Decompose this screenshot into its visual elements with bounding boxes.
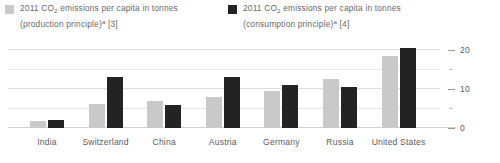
- bar-austria-production: [206, 97, 222, 128]
- legend-consumption-line1-rest: emissions per capita in tonnes: [281, 3, 401, 13]
- y-axis-label-20: 20: [460, 45, 470, 55]
- bar-china-consumption: [165, 105, 181, 128]
- bar-chart: 2011 CO2 emissions per capita in tonnes …: [0, 0, 500, 163]
- bar-austria-consumption: [224, 77, 240, 128]
- y-tickmark-20-icon: [448, 50, 455, 51]
- legend-production-prefix: CO: [41, 3, 54, 13]
- y-tick-15: [448, 65, 460, 75]
- legend-consumption-prefix: CO: [264, 3, 277, 13]
- bar-united-states-production: [382, 56, 398, 128]
- bar-group: [89, 42, 123, 128]
- bar-germany-consumption: [282, 85, 298, 128]
- bar-series-container: [0, 42, 500, 128]
- legend-label-production: 2011 CO2 emissions per capita in tonnes …: [20, 3, 178, 30]
- y-tick-5: [448, 104, 460, 114]
- y-axis: 01020: [448, 42, 500, 134]
- bar-group: [30, 42, 64, 128]
- legend-swatch-consumption-icon: [228, 5, 237, 14]
- legend-consumption-year: 2011: [243, 3, 262, 13]
- bar-russia-consumption: [341, 87, 357, 128]
- y-tickmark-5-icon: [449, 108, 453, 109]
- bar-switzerland-production: [89, 104, 105, 128]
- x-axis-label-united-states: United States: [354, 137, 444, 147]
- legend-production-reference: [3]: [106, 19, 118, 29]
- y-axis-label-10: 10: [460, 84, 470, 94]
- bar-india-consumption: [48, 120, 64, 128]
- bar-india-production: [30, 121, 46, 128]
- bar-germany-production: [264, 91, 280, 128]
- y-tick-20: 20: [448, 45, 470, 55]
- legend-production-line2: (production principle): [20, 19, 102, 29]
- bar-switzerland-consumption: [107, 77, 123, 128]
- y-axis-label-0: 0: [460, 123, 465, 133]
- legend-consumption-reference: [4]: [337, 19, 349, 29]
- y-tick-10: 10: [448, 84, 470, 94]
- x-axis: IndiaSwitzerlandChinaAustriaGermanyRussi…: [0, 137, 500, 157]
- bar-group: [264, 42, 298, 128]
- y-tickmark-15-icon: [449, 69, 453, 70]
- legend-consumption-line2: (consumption principle): [243, 19, 333, 29]
- y-tick-0: 0: [448, 123, 465, 133]
- y-tickmark-10-icon: [448, 89, 455, 90]
- legend-label-consumption: 2011 CO2 emissions per capita in tonnes …: [243, 3, 401, 30]
- chart-legend: 2011 CO2 emissions per capita in tonnes …: [0, 0, 500, 42]
- plot-area: [0, 42, 500, 134]
- bar-united-states-consumption: [400, 48, 416, 128]
- bar-group: [382, 42, 416, 128]
- legend-item-consumption: 2011 CO2 emissions per capita in tonnes …: [228, 3, 401, 30]
- legend-item-production: 2011 CO2 emissions per capita in tonnes …: [5, 3, 178, 30]
- legend-production-year: 2011: [20, 3, 39, 13]
- legend-swatch-production-icon: [5, 5, 14, 14]
- bar-china-production: [147, 101, 163, 128]
- legend-production-line1-rest: emissions per capita in tonnes: [58, 3, 178, 13]
- bar-group: [147, 42, 181, 128]
- bar-group: [323, 42, 357, 128]
- y-tickmark-0-icon: [448, 128, 455, 129]
- bar-group: [206, 42, 240, 128]
- bar-russia-production: [323, 79, 339, 128]
